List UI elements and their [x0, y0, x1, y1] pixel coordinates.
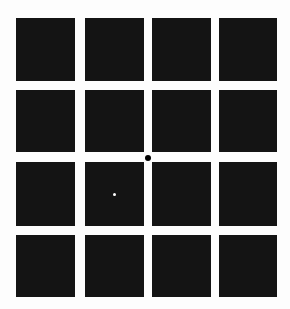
- white-dot: [113, 193, 116, 196]
- grid-square-r2-c3: [152, 90, 211, 152]
- grid-square-r1-c4: [219, 18, 277, 81]
- grid-square-r3-c1: [16, 162, 75, 226]
- grid-square-r2-c1: [16, 90, 75, 152]
- grid-square-r4-c1: [16, 235, 75, 297]
- black-fixation-dot: [145, 155, 151, 161]
- grid-square-r1-c3: [152, 18, 211, 81]
- grid-square-r2-c2: [85, 90, 144, 152]
- grid-square-r2-c4: [219, 90, 277, 152]
- grid-square-r1-c1: [16, 18, 75, 81]
- grid-square-r3-c3: [152, 162, 211, 226]
- grid-square-r1-c2: [85, 18, 144, 81]
- grid-square-r4-c3: [152, 235, 211, 297]
- grid-square-r3-c4: [219, 162, 277, 226]
- grid-square-r4-c2: [85, 235, 144, 297]
- grid-illusion-figure: [0, 0, 290, 309]
- grid-square-r4-c4: [219, 235, 277, 297]
